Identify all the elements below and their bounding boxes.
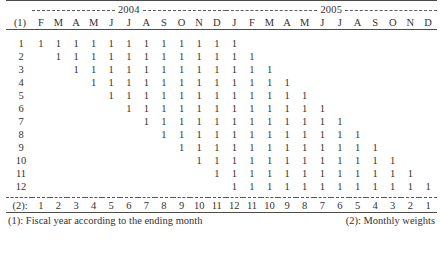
month-empty: [32, 180, 50, 193]
month-empty: [314, 37, 332, 50]
month-mark: 1: [296, 154, 314, 167]
month-empty: [349, 89, 367, 102]
month-mark: 1: [278, 115, 296, 128]
month-mark: 1: [120, 63, 138, 76]
month-mark: 1: [278, 154, 296, 167]
month-mark: 1: [226, 102, 244, 115]
month-mark: 1: [314, 141, 332, 154]
month-empty: [384, 128, 402, 141]
month-mark: 1: [243, 63, 261, 76]
month-mark: 1: [384, 180, 402, 193]
monthly-weight: 3: [384, 199, 402, 213]
month-empty: [331, 102, 349, 115]
month-mark: 1: [190, 37, 208, 50]
month-mark: 1: [155, 37, 173, 50]
month-mark: 1: [120, 102, 138, 115]
month-mark: 1: [314, 154, 332, 167]
year-dash-right: [345, 10, 437, 11]
month-empty: [67, 167, 85, 180]
monthly-weight: 8: [296, 199, 314, 213]
month-mark: 1: [226, 141, 244, 154]
year-label: 2005: [320, 3, 342, 16]
month-empty: [366, 76, 384, 89]
fiscal-year-weight-table: 20042005(1)FMAMJJASONDJFMAMJJASOND111111…: [0, 0, 443, 260]
month-mark: 1: [384, 154, 402, 167]
month-mark: 1: [173, 115, 191, 128]
month-header-22: N: [401, 16, 419, 30]
month-mark: 1: [102, 63, 120, 76]
month-empty: [67, 76, 85, 89]
month-mark: 1: [50, 37, 68, 50]
month-mark: 1: [261, 128, 279, 141]
month-mark: 1: [120, 37, 138, 50]
table-footnotes: (1): Fiscal year according to the ending…: [6, 215, 437, 226]
month-mark: 1: [401, 167, 419, 180]
month-header-12: J: [226, 16, 244, 30]
month-empty: [384, 102, 402, 115]
month-header-21: O: [384, 16, 402, 30]
month-mark: 1: [138, 50, 156, 63]
month-empty: [278, 37, 296, 50]
month-mark: 1: [384, 167, 402, 180]
monthly-weight: 7: [314, 199, 332, 213]
month-empty: [85, 141, 103, 154]
month-mark: 1: [155, 63, 173, 76]
month-mark: 1: [331, 115, 349, 128]
month-empty: [50, 154, 68, 167]
month-empty: [401, 102, 419, 115]
month-mark: 1: [173, 50, 191, 63]
month-empty: [331, 37, 349, 50]
month-mark: 1: [314, 180, 332, 193]
month-header-9: O: [173, 16, 191, 30]
month-empty: [419, 102, 437, 115]
month-mark: 1: [261, 154, 279, 167]
month-empty: [314, 63, 332, 76]
month-empty: [366, 63, 384, 76]
year-dash-right: [143, 10, 226, 11]
month-mark: 1: [331, 180, 349, 193]
month-empty: [419, 154, 437, 167]
month-mark: 1: [120, 89, 138, 102]
month-mark: 1: [226, 50, 244, 63]
month-empty: [50, 180, 68, 193]
monthly-weight: 4: [366, 199, 384, 213]
monthly-weight: 5: [349, 199, 367, 213]
month-mark: 1: [190, 102, 208, 115]
month-mark: 1: [190, 128, 208, 141]
month-empty: [366, 128, 384, 141]
month-mark: 1: [173, 128, 191, 141]
month-header-18: J: [331, 16, 349, 30]
month-empty: [102, 128, 120, 141]
month-empty: [296, 76, 314, 89]
month-mark: 1: [173, 76, 191, 89]
month-mark: 1: [314, 115, 332, 128]
month-mark: 1: [349, 180, 367, 193]
month-header-8: S: [155, 16, 173, 30]
month-mark: 1: [102, 50, 120, 63]
month-empty: [419, 76, 437, 89]
month-empty: [32, 76, 50, 89]
month-empty: [173, 167, 191, 180]
month-empty: [67, 154, 85, 167]
month-header-20: S: [366, 16, 384, 30]
month-mark: 1: [190, 115, 208, 128]
month-empty: [120, 115, 138, 128]
month-empty: [401, 76, 419, 89]
table-row: 4111111111111: [6, 76, 437, 89]
month-empty: [50, 89, 68, 102]
month-empty: [384, 115, 402, 128]
month-mark: 1: [349, 128, 367, 141]
monthly-weight: 8: [155, 199, 173, 213]
month-empty: [331, 63, 349, 76]
month-mark: 1: [366, 141, 384, 154]
monthly-weight: 9: [278, 199, 296, 213]
month-mark: 1: [261, 167, 279, 180]
month-header-13: F: [243, 16, 261, 30]
month-empty: [349, 50, 367, 63]
month-empty: [120, 180, 138, 193]
month-empty: [102, 180, 120, 193]
month-mark: 1: [243, 89, 261, 102]
month-empty: [349, 63, 367, 76]
month-empty: [401, 128, 419, 141]
month-empty: [32, 141, 50, 154]
